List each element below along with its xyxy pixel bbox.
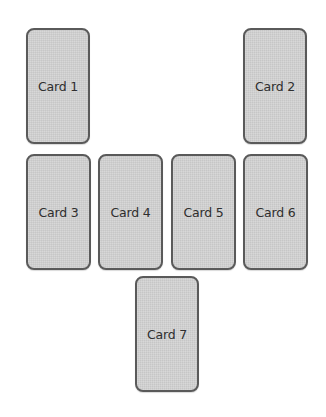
card-2: Card 2	[243, 28, 307, 144]
card-1-label: Card 1	[38, 79, 78, 94]
card-7-label: Card 7	[147, 327, 187, 342]
card-4: Card 4	[98, 154, 163, 270]
card-5: Card 5	[171, 154, 236, 270]
card-2-label: Card 2	[255, 79, 295, 94]
card-6-label: Card 6	[256, 205, 296, 220]
card-6: Card 6	[243, 154, 308, 270]
card-4-label: Card 4	[111, 205, 151, 220]
card-3: Card 3	[26, 154, 91, 270]
card-7: Card 7	[135, 276, 199, 392]
card-1: Card 1	[26, 28, 90, 144]
card-3-label: Card 3	[39, 205, 79, 220]
card-5-label: Card 5	[184, 205, 224, 220]
